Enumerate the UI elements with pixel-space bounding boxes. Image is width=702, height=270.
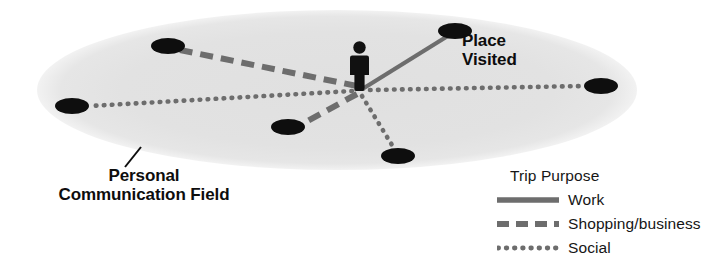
place-node-top-left[interactable] [151, 38, 185, 54]
place-visited-line1: Place [462, 31, 517, 50]
personal-field-line2: Communication Field [28, 185, 260, 204]
legend-label-work: Work [568, 191, 604, 209]
legend-item-social[interactable]: Social [497, 236, 697, 260]
place-node-bottom[interactable] [381, 148, 415, 164]
legend-swatch-solid-icon [497, 193, 559, 207]
place-node-left[interactable] [55, 98, 89, 114]
legend-swatch-dotted-icon [497, 241, 559, 255]
personal-field-line1: Personal [28, 166, 260, 185]
legend-item-shopping-business[interactable]: Shopping/business [497, 212, 697, 236]
legend-label-social: Social [568, 239, 611, 257]
place-visited-label: Place Visited [462, 31, 517, 70]
figure-canvas: Place Visited Personal Communication Fie… [0, 0, 702, 270]
place-node-right[interactable] [584, 78, 618, 94]
legend-label-shopping-business: Shopping/business [568, 215, 701, 233]
legend: Trip Purpose Work Shopping/business [497, 167, 697, 260]
legend-title: Trip Purpose [510, 167, 697, 185]
personal-field-leader-line [125, 147, 141, 167]
place-node-bottom-left[interactable] [271, 119, 305, 135]
legend-item-work[interactable]: Work [497, 188, 697, 212]
legend-swatch-dashed-icon [497, 217, 559, 231]
place-visited-line2: Visited [462, 50, 517, 69]
personal-communication-field-label: Personal Communication Field [28, 166, 260, 205]
